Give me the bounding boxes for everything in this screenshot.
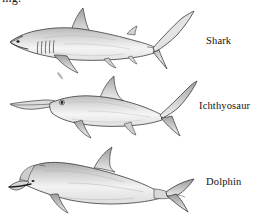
- dolphin-illustration: [4, 143, 200, 217]
- label-dolphin: Dolphin: [206, 176, 241, 187]
- ichthyosaur-tail-upper-lobe: [160, 81, 197, 118]
- ichthyosaur-speck: [57, 72, 63, 80]
- ichthyosaur-illustration: [8, 72, 200, 140]
- dolphin-dorsal-fin: [94, 147, 115, 172]
- shark-second-dorsal-fin: [127, 26, 137, 35]
- label-shark: Shark: [206, 35, 231, 46]
- ichthyosaur-pupil: [61, 101, 64, 104]
- shark-illustration: [4, 6, 196, 76]
- ichthyosaur-body-group: [10, 72, 197, 138]
- label-ichthyosaur: Ichthyosaur: [199, 100, 250, 111]
- shark-tail-upper-lobe: [153, 11, 194, 52]
- ichthyosaur-body: [50, 96, 162, 127]
- shark-tail-lower-lobe: [153, 50, 167, 69]
- dolphin-body: [20, 162, 161, 204]
- ichthyosaur-tail-lower-lobe: [161, 116, 180, 136]
- convergent-evolution-figure: ing.: [0, 0, 272, 222]
- dolphin-body-group: [9, 147, 194, 213]
- dolphin-tail-fluke-upper: [166, 179, 194, 197]
- shark-body-group: [10, 8, 194, 73]
- shark-eye: [16, 40, 19, 42]
- dolphin-eye: [32, 180, 35, 182]
